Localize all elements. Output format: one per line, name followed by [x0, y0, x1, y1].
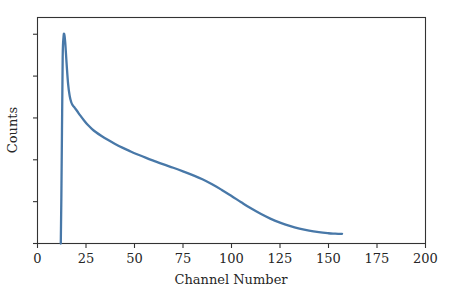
- x-tick-label-100: 100: [219, 251, 244, 266]
- x-tick-label-0: 0: [33, 251, 41, 266]
- y-axis-title: Counts: [5, 107, 20, 153]
- x-tick-label-175: 175: [365, 251, 390, 266]
- spectrum-chart: 0255075100125150175200 Channel Number Co…: [0, 0, 461, 296]
- x-tick-label-25: 25: [78, 251, 95, 266]
- x-tick-label-125: 125: [268, 251, 293, 266]
- figure-canvas: 0255075100125150175200 Channel Number Co…: [0, 0, 461, 296]
- x-axis-tick-labels: 0255075100125150175200: [33, 251, 438, 266]
- x-tick-label-200: 200: [413, 251, 438, 266]
- x-tick-label-150: 150: [316, 251, 341, 266]
- x-axis-title: Channel Number: [174, 272, 288, 287]
- x-tick-label-50: 50: [126, 251, 143, 266]
- x-tick-label-75: 75: [175, 251, 192, 266]
